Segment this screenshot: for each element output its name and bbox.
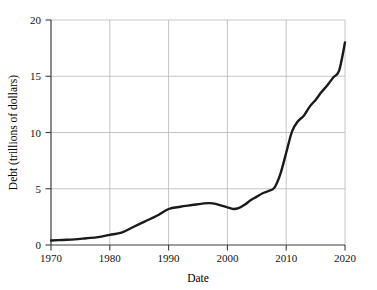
debt-line-chart: 0 5 10 15 20 1970 1980 1990 2000 2010 20… xyxy=(0,0,377,290)
chart-figure: 0 5 10 15 20 1970 1980 1990 2000 2010 20… xyxy=(0,0,377,290)
xtick-label-1970: 1970 xyxy=(40,252,63,264)
ytick-label-20: 20 xyxy=(30,14,42,26)
xtick-label-2010: 2010 xyxy=(275,252,298,264)
xtick-label-2000: 2000 xyxy=(216,252,239,264)
ytick-label-15: 15 xyxy=(30,70,42,82)
xtick-label-1990: 1990 xyxy=(158,252,181,264)
y-axis-title: Debt (trillions of dollars) xyxy=(7,75,20,190)
ytick-label-5: 5 xyxy=(36,183,42,195)
x-axis-title: Date xyxy=(187,272,209,284)
ytick-label-10: 10 xyxy=(30,127,42,139)
chart-background xyxy=(0,0,377,290)
ytick-label-0: 0 xyxy=(36,239,42,251)
xtick-label-1980: 1980 xyxy=(99,252,122,264)
xtick-label-2020: 2020 xyxy=(334,252,357,264)
